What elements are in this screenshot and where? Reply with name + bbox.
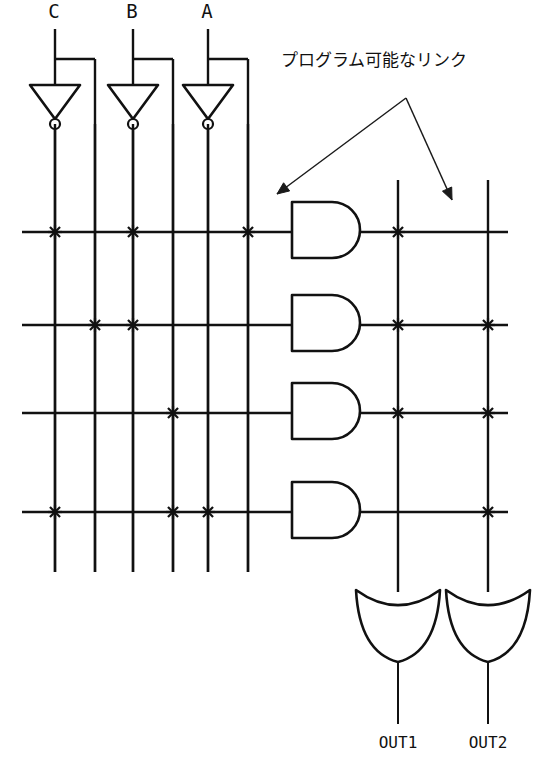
- input-label-B: B: [126, 0, 137, 22]
- or-link-r1-x398[interactable]: [391, 225, 405, 239]
- and-gate-1[interactable]: [292, 202, 360, 258]
- inverter-triangle-A[interactable]: [183, 85, 233, 119]
- and-plane-column-group: [55, 124, 248, 572]
- or-link-r3-x398[interactable]: [391, 406, 405, 420]
- and-link-r1-x55[interactable]: [48, 225, 62, 239]
- and-link-r1-x248[interactable]: [241, 225, 255, 239]
- and-plane-link-group: [48, 225, 255, 519]
- and-link-r3-x173[interactable]: [166, 406, 180, 420]
- or-link-r2-x398[interactable]: [391, 318, 405, 332]
- and-gate-4[interactable]: [292, 482, 360, 538]
- annotation-arrow-right-shaft: [406, 98, 452, 200]
- pla-diagram: CBAOUT1OUT2 プログラム可能なリンク: [0, 0, 536, 776]
- and-gate-group: [292, 202, 508, 538]
- or-gate-group: [356, 590, 530, 724]
- annotation-text: プログラム可能なリンク: [281, 50, 467, 70]
- inverter-triangle-C[interactable]: [30, 85, 80, 119]
- annotation-arrow-right-head: [442, 187, 452, 200]
- and-link-r4-x55[interactable]: [48, 505, 62, 519]
- and-gate-3[interactable]: [292, 383, 360, 439]
- or-plane-link-group: [391, 225, 495, 519]
- and-gate-2[interactable]: [292, 295, 360, 351]
- annotation-group: プログラム可能なリンク: [277, 50, 467, 200]
- or-plane-column-group: [398, 180, 488, 592]
- and-link-r2-x95[interactable]: [88, 318, 102, 332]
- input-stem-group: [55, 29, 248, 572]
- input-label-C: C: [48, 0, 59, 22]
- or-link-r2-x488[interactable]: [481, 318, 495, 332]
- or-gate-OUT1[interactable]: [356, 590, 440, 662]
- or-link-r4-x488[interactable]: [481, 505, 495, 519]
- inverter-triangle-B[interactable]: [108, 85, 158, 119]
- inverter-group: [30, 85, 233, 572]
- or-gate-OUT2[interactable]: [446, 590, 530, 662]
- and-link-r1-x133[interactable]: [126, 225, 140, 239]
- and-link-r2-x133[interactable]: [126, 318, 140, 332]
- annotation-arrow-left-shaft: [277, 98, 406, 194]
- and-plane-row-group: [22, 232, 292, 512]
- label-group: CBAOUT1OUT2: [48, 0, 507, 752]
- or-link-r3-x488[interactable]: [481, 406, 495, 420]
- annotation-arrow-left-head: [277, 183, 290, 194]
- input-label-A: A: [201, 0, 213, 22]
- output-label-OUT2: OUT2: [469, 733, 508, 752]
- and-link-r4-x173[interactable]: [166, 505, 180, 519]
- pla-schematic-canvas: CBAOUT1OUT2 プログラム可能なリンク: [0, 0, 536, 776]
- output-label-OUT1: OUT1: [379, 733, 418, 752]
- and-link-r4-x208[interactable]: [201, 505, 215, 519]
